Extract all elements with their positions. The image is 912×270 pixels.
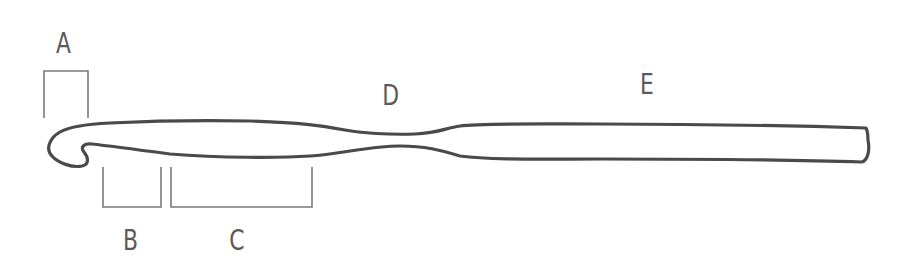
label-a: A xyxy=(56,30,71,58)
crochet-hook-outline xyxy=(49,121,869,167)
bracket-a xyxy=(44,71,88,118)
label-b: B xyxy=(123,227,138,255)
bracket-b xyxy=(103,167,161,207)
bracket-c xyxy=(171,167,312,207)
label-e: E xyxy=(640,71,654,99)
label-c: C xyxy=(229,227,244,255)
label-d: D xyxy=(382,82,399,110)
